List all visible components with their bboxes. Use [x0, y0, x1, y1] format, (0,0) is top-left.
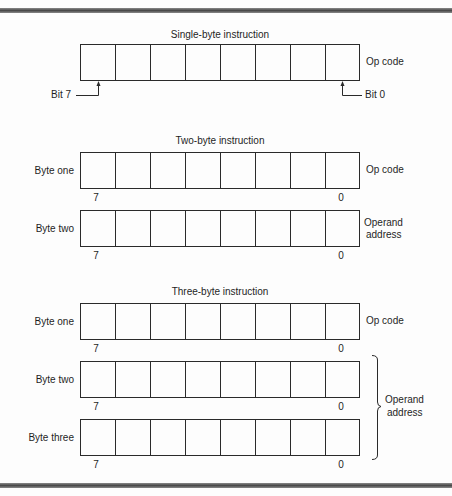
- lsb-label: 0: [338, 192, 344, 203]
- register-single-byte: [81, 45, 360, 81]
- msb-label: 7: [93, 401, 99, 412]
- lsb-label: 0: [338, 250, 344, 261]
- bottom-rule: [0, 483, 452, 488]
- lsb-label: 0: [338, 401, 344, 412]
- side-label-opcode-3: Op code: [366, 315, 404, 326]
- side-label-opcode-2: Op code: [366, 164, 404, 175]
- byte-label-two-byte-one: Byte one: [35, 165, 75, 176]
- side-label-opcode-1: Op code: [366, 56, 404, 67]
- lsb-label: 0: [338, 343, 344, 354]
- top-rule: [0, 8, 452, 13]
- bit0-label: Bit 0: [365, 89, 385, 100]
- msb-label: 7: [93, 192, 99, 203]
- register-two-byte-two: [81, 211, 360, 247]
- bit7-label: Bit 7: [51, 89, 71, 100]
- byte-label-three-byte-two: Byte two: [36, 374, 75, 385]
- right-brace-icon: [372, 356, 381, 460]
- bit7-arrow-icon: [97, 81, 101, 86]
- msb-label: 7: [93, 250, 99, 261]
- side-label-address-1: address: [366, 229, 402, 240]
- diagram-canvas: Single-byte instruction Op code Bit 7 Bi…: [0, 0, 452, 496]
- register-three-byte-three: [81, 420, 360, 456]
- instruction-format-diagram: Single-byte instruction Op code Bit 7 Bi…: [0, 0, 452, 496]
- register-three-byte-one: [81, 304, 360, 340]
- bit0-arrow-icon: [341, 81, 345, 86]
- byte-label-two-byte-two: Byte two: [36, 223, 75, 234]
- brace-label-operand: Operand: [385, 394, 424, 405]
- brace-label-address: address: [387, 407, 423, 418]
- lsb-label: 0: [338, 459, 344, 470]
- msb-label: 7: [93, 459, 99, 470]
- register-two-byte-one: [81, 153, 360, 189]
- side-label-operand-1: Operand: [364, 217, 403, 228]
- section-title-single-byte: Single-byte instruction: [171, 29, 269, 40]
- byte-label-three-byte-one: Byte one: [35, 316, 75, 327]
- bit7-leader-line: [76, 84, 99, 96]
- bit0-leader-line: [343, 84, 363, 96]
- msb-label: 7: [93, 343, 99, 354]
- byte-label-three-byte-three: Byte three: [28, 432, 74, 443]
- section-title-two-byte: Two-byte instruction: [176, 135, 265, 146]
- register-three-byte-two: [81, 362, 360, 398]
- section-title-three-byte: Three-byte instruction: [172, 286, 269, 297]
